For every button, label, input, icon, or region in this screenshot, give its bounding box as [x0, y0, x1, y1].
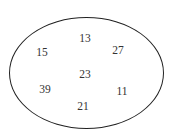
- number-11: 11: [116, 86, 127, 98]
- number-15: 15: [36, 47, 48, 59]
- number-21: 21: [77, 101, 89, 113]
- number-23: 23: [79, 69, 91, 81]
- number-39: 39: [39, 84, 51, 96]
- number-13: 13: [79, 33, 91, 45]
- number-27: 27: [112, 45, 124, 57]
